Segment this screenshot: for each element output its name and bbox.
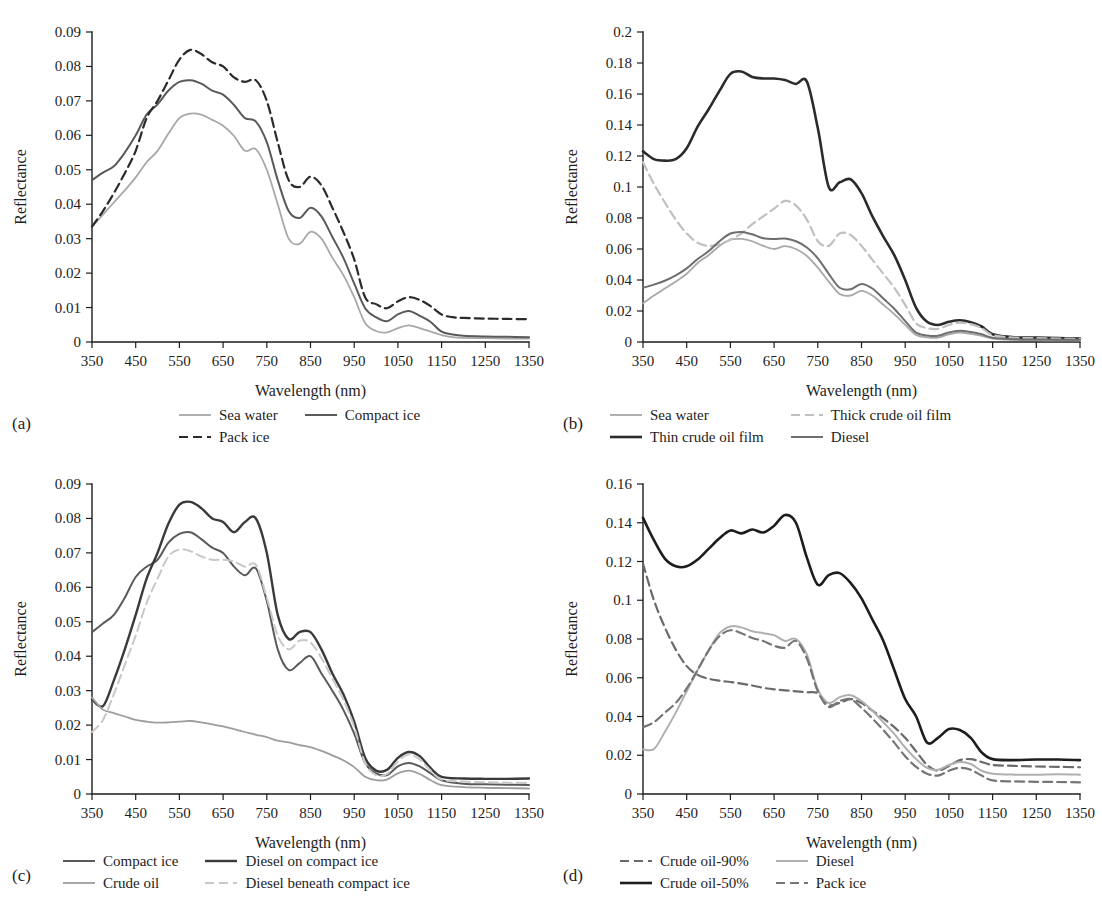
x-tick-label: 1150 [427, 353, 456, 369]
panel-a-legend: Sea waterCompact icePack ice [178, 406, 420, 447]
series-line [92, 50, 529, 320]
y-tick-label: 0.04 [55, 648, 82, 664]
series-line [92, 113, 529, 338]
panel-b-plot: 00.020.040.060.080.10.120.140.160.180.23… [551, 0, 1102, 452]
x-tick-label: 1250 [1021, 353, 1051, 369]
y-tick-label: 0.04 [55, 196, 82, 212]
legend-label: Thin crude oil film [650, 428, 764, 447]
legend-label: Diesel [831, 428, 869, 447]
x-tick-label: 1050 [383, 353, 413, 369]
legend-swatch-icon [609, 409, 643, 421]
series-line [643, 626, 1080, 775]
legend-swatch-icon [178, 409, 212, 421]
y-tick-label: 0 [625, 334, 633, 350]
x-tick-label: 1350 [514, 805, 544, 821]
chart-b: 00.020.040.060.080.10.120.140.160.180.23… [551, 0, 1102, 452]
legend-swatch-icon [775, 877, 809, 889]
y-tick-label: 0.01 [55, 752, 81, 768]
panel-d-tag: (d) [563, 866, 583, 886]
panel-d-legend: Crude oil-90%DieselCrude oil-50%Pack ice [619, 852, 866, 893]
x-tick-label: 1350 [1065, 353, 1095, 369]
series-line [643, 232, 1080, 340]
legend-item: Compact ice [62, 852, 178, 871]
panel-d: 00.020.040.060.080.10.120.140.1635045055… [551, 452, 1102, 904]
legend-label: Compact ice [345, 406, 420, 425]
series-line [92, 698, 529, 789]
y-tick-label: 0.07 [55, 545, 82, 561]
x-tick-label: 350 [632, 353, 655, 369]
y-tick-label: 0.02 [55, 265, 81, 281]
legend-swatch-icon [204, 855, 238, 867]
legend-label: Crude oil [103, 874, 159, 893]
legend-item: Thin crude oil film [609, 428, 764, 447]
y-tick-label: 0.03 [55, 683, 81, 699]
legend-label: Pack ice [219, 428, 269, 447]
panel-c: 00.010.020.030.040.050.060.070.080.09350… [0, 452, 551, 904]
legend-label: Diesel on compact ice [245, 852, 378, 871]
y-tick-label: 0.18 [606, 55, 632, 71]
x-tick-label: 750 [256, 805, 279, 821]
panel-a-tag: (a) [12, 414, 31, 434]
x-tick-label: 1250 [470, 353, 500, 369]
chart-c: 00.010.020.030.040.050.060.070.080.09350… [0, 452, 551, 904]
legend-swatch-icon [790, 409, 824, 421]
y-axis-title: Reflectance [12, 149, 29, 225]
x-tick-label: 550 [719, 805, 742, 821]
panel-b: 00.020.040.060.080.10.120.140.160.180.23… [551, 0, 1102, 452]
y-tick-label: 0.1 [613, 179, 632, 195]
x-tick-label: 1350 [1065, 805, 1095, 821]
legend-swatch-icon [619, 877, 653, 889]
series-line [643, 563, 1080, 770]
x-tick-label: 950 [343, 353, 366, 369]
x-tick-label: 450 [675, 805, 698, 821]
y-tick-label: 0.01 [55, 300, 81, 316]
x-tick-label: 550 [168, 805, 191, 821]
legend-label: Sea water [219, 406, 278, 425]
legend-item: Diesel beneath compact ice [204, 874, 410, 893]
y-axis-title: Reflectance [563, 149, 580, 225]
x-tick-label: 950 [894, 805, 917, 821]
legend-swatch-icon [619, 855, 653, 867]
y-tick-label: 0.06 [606, 670, 633, 686]
x-axis-title: Wavelength (nm) [255, 382, 366, 400]
legend-item: Pack ice [178, 428, 278, 447]
x-axis-title: Wavelength (nm) [806, 382, 917, 400]
series-line [643, 239, 1080, 341]
y-tick-label: 0.06 [55, 579, 82, 595]
y-tick-label: 0 [74, 334, 82, 350]
y-tick-label: 0.03 [55, 231, 81, 247]
legend-swatch-icon [775, 855, 809, 867]
y-tick-label: 0 [74, 786, 82, 802]
y-tick-label: 0.16 [606, 476, 633, 492]
chart-d: 00.020.040.060.080.10.120.140.1635045055… [551, 452, 1102, 904]
x-tick-label: 450 [675, 353, 698, 369]
x-tick-label: 1250 [470, 805, 500, 821]
legend-label: Diesel beneath compact ice [245, 874, 410, 893]
axis-lines [92, 32, 529, 342]
series-line [92, 502, 529, 779]
legend-label: Crude oil-50% [660, 874, 749, 893]
y-axis-title: Reflectance [12, 601, 29, 677]
y-tick-label: 0.1 [613, 592, 632, 608]
legend-item: Crude oil [62, 874, 178, 893]
y-tick-label: 0.14 [606, 117, 633, 133]
y-tick-label: 0.05 [55, 162, 81, 178]
y-tick-label: 0.07 [55, 93, 82, 109]
x-tick-label: 1050 [934, 805, 964, 821]
x-axis-title: Wavelength (nm) [806, 834, 917, 852]
panel-c-legend: Compact iceDiesel on compact iceCrude oi… [62, 852, 410, 893]
legend-swatch-icon [609, 431, 643, 443]
legend-item: Crude oil-50% [619, 874, 749, 893]
panel-c-plot: 00.010.020.030.040.050.060.070.080.09350… [0, 452, 551, 904]
x-tick-label: 350 [81, 353, 104, 369]
chart-a: 00.010.020.030.040.050.060.070.080.09350… [0, 0, 551, 452]
x-tick-label: 450 [124, 353, 147, 369]
legend-item: Pack ice [775, 874, 866, 893]
panel-c-tag: (c) [12, 866, 31, 886]
y-axis-title: Reflectance [563, 601, 580, 677]
legend-item: Compact ice [304, 406, 420, 425]
legend-label: Thick crude oil film [831, 406, 951, 425]
legend-label: Compact ice [103, 852, 178, 871]
y-tick-label: 0.02 [606, 747, 632, 763]
legend-label: Crude oil-90% [660, 852, 749, 871]
